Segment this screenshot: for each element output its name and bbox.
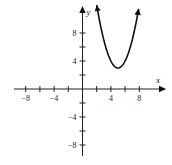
x-tick-label: −8	[21, 94, 30, 103]
y-tick-label: 4	[73, 57, 77, 66]
plot-curves	[95, 5, 139, 68]
arrow-head-icon	[95, 5, 101, 11]
parabola-curve	[97, 5, 139, 68]
y-tick-label: −4	[68, 113, 77, 122]
coordinate-plane: −8−44884−4−8 x y	[0, 0, 172, 165]
y-axis-label: y	[86, 7, 91, 17]
axes	[14, 7, 165, 156]
x-tick-label: −4	[50, 94, 59, 103]
x-tick-label: 4	[109, 94, 113, 103]
y-tick-label: 8	[73, 29, 77, 38]
x-axis-label: x	[155, 75, 160, 85]
x-tick-label: 8	[137, 94, 141, 103]
y-tick-label: −8	[68, 141, 77, 150]
